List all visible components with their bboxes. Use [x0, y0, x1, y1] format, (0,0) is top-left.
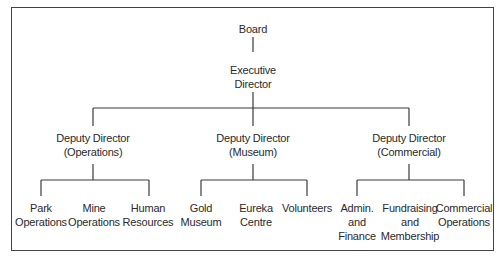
node-gold-museum: Gold Museum — [181, 201, 222, 229]
node-deputy-director-museum: Deputy Director (Museum) — [216, 131, 289, 159]
node-eureka-centre: Eureka Centre — [239, 201, 273, 229]
node-executive-director: Executive Director — [230, 63, 276, 91]
node-mine-operations: Mine Operations — [68, 201, 120, 229]
node-deputy-director-commercial: Deputy Director (Commercial) — [372, 131, 445, 159]
node-human-resources: Human Resources — [123, 201, 174, 229]
node-park-operations: Park Operations — [15, 201, 67, 229]
node-volunteers: Volunteers — [282, 201, 332, 215]
node-fundraising-membership: Fundraising and Membership — [381, 201, 440, 243]
node-deputy-director-operations: Deputy Director (Operations) — [56, 131, 129, 159]
node-commercial-operations: Commercial Operations — [436, 201, 493, 229]
node-admin-finance: Admin. and Finance — [338, 201, 376, 243]
node-board: Board — [239, 22, 267, 36]
